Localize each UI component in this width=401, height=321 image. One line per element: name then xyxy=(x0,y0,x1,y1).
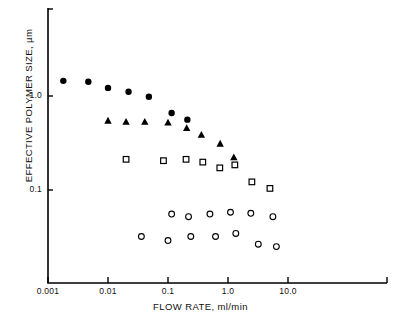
data-point xyxy=(249,179,255,185)
data-point xyxy=(216,140,223,147)
data-point xyxy=(188,234,194,240)
x-tick-label: 1.0 xyxy=(206,286,250,296)
data-point xyxy=(270,214,276,220)
series-open-circle-lower xyxy=(138,231,279,250)
data-point xyxy=(213,234,219,240)
data-point xyxy=(60,78,66,84)
data-point xyxy=(217,165,223,171)
data-point xyxy=(168,110,174,116)
data-point xyxy=(123,157,129,163)
data-point xyxy=(138,234,144,240)
data-point xyxy=(233,231,239,237)
data-point xyxy=(186,214,192,220)
data-point xyxy=(165,238,171,244)
data-point xyxy=(85,78,91,84)
data-point xyxy=(248,210,254,216)
data-point xyxy=(104,117,111,124)
data-point xyxy=(164,119,171,126)
data-point xyxy=(273,244,279,250)
data-point xyxy=(146,94,152,100)
chart-figure: EFFECTIVE POLYMER SIZE, µm FLOW RATE, ml… xyxy=(0,0,401,321)
y-tick-label: 1.0 xyxy=(12,90,42,100)
x-tick-label: 0.01 xyxy=(86,286,130,296)
data-point xyxy=(183,157,189,163)
data-point xyxy=(230,153,237,160)
data-point xyxy=(183,124,190,131)
data-point xyxy=(207,211,213,217)
data-point xyxy=(141,118,148,125)
data-point xyxy=(169,211,175,217)
series-filled-triangle xyxy=(104,117,237,161)
y-tick-label: 0.1 xyxy=(12,184,42,194)
data-point xyxy=(255,241,261,247)
data-point xyxy=(228,209,234,215)
series-open-square xyxy=(123,157,272,192)
data-point xyxy=(198,131,205,138)
series-open-circle-upper xyxy=(169,209,276,219)
data-point xyxy=(184,116,190,122)
data-point xyxy=(267,186,273,192)
x-tick-label: 10.0 xyxy=(266,286,310,296)
series-filled-circle xyxy=(60,78,190,123)
x-tick-label: 0.1 xyxy=(146,286,190,296)
data-point xyxy=(200,159,206,165)
data-point xyxy=(122,118,129,125)
x-tick-label: 0.001 xyxy=(26,286,70,296)
data-point xyxy=(125,89,131,95)
plot-canvas xyxy=(0,0,401,321)
data-point xyxy=(105,85,111,91)
data-point xyxy=(232,162,238,168)
data-point xyxy=(161,158,167,164)
